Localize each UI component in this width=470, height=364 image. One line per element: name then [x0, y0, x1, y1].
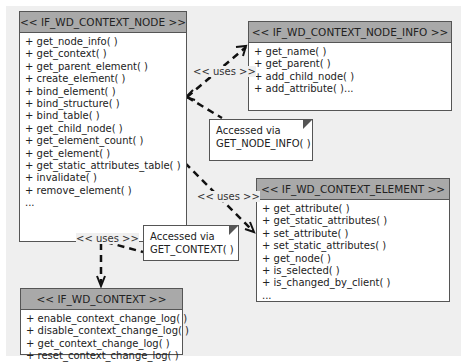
method-item: + get_parent_element( )	[25, 61, 186, 73]
method-item: + reset_context_change_log( )	[26, 350, 182, 362]
box-title: << IF_WD_CONTEXT >>	[21, 289, 182, 310]
method-list: + enable_context_change_log( ) + disable…	[21, 310, 182, 363]
note-line: Accessed via	[150, 230, 238, 243]
box-title: << IF_WD_CONTEXT_ELEMENT >>	[257, 179, 449, 200]
uses-label-node-info: << uses >>	[193, 66, 256, 77]
note-fold-icon	[303, 119, 313, 129]
method-item: + create_element( )	[25, 73, 186, 85]
box-title: << IF_WD_CONTEXT_NODE_INFO >>	[249, 22, 451, 43]
method-item: + get_context( )	[25, 48, 186, 60]
method-item: + bind_table( )	[25, 110, 186, 122]
note-fold-icon	[229, 225, 239, 235]
method-list: + get_node_info( ) + get_context( ) + ge…	[20, 33, 186, 210]
uses-label-element: << uses >>	[197, 191, 260, 202]
note-line: GET_CONTEXT( )	[150, 243, 238, 256]
method-item: + get_element( )	[25, 148, 186, 160]
method-item: + set_static_attributes( )	[262, 240, 449, 252]
note-line-node-info	[187, 97, 222, 118]
method-item: ...	[25, 197, 186, 209]
box-if-wd-context-element: << IF_WD_CONTEXT_ELEMENT >> + get_attrib…	[256, 178, 450, 302]
box-if-wd-context-node-info: << IF_WD_CONTEXT_NODE_INFO >> + get_name…	[248, 21, 452, 111]
method-item: ...	[262, 290, 449, 302]
box-title: << IF_WD_CONTEXT_NODE >>	[20, 12, 186, 33]
method-item: + invalidate( )	[25, 172, 186, 184]
method-list: + get_name( ) + get_parent( ) + add_chil…	[249, 43, 451, 96]
method-item: + get_attribute( )	[262, 203, 449, 215]
method-list: + get_attribute( ) + get_static_attribut…	[257, 200, 449, 302]
method-item: + get_static_attributes_table( )	[25, 160, 186, 172]
method-item: + get_static_attributes( )	[262, 215, 449, 227]
method-item: + get_node_info( )	[25, 36, 186, 48]
method-item: + is_selected( )	[262, 265, 449, 277]
box-if-wd-context-node: << IF_WD_CONTEXT_NODE >> + get_node_info…	[19, 11, 187, 242]
method-item: + get_child_node( )	[25, 123, 186, 135]
note-accessed-via-get-context: Accessed via GET_CONTEXT( )	[143, 225, 239, 261]
method-item: + get_element_count( )	[25, 135, 186, 147]
method-item: + get_parent( )	[254, 58, 451, 70]
method-item: + add_attribute( )...	[254, 83, 451, 95]
method-item: + bind_element( )	[25, 86, 186, 98]
note-line: Accessed via	[216, 124, 312, 137]
method-item: + get_context_change_log( )	[26, 338, 182, 350]
method-item: + get_node( )	[262, 253, 449, 265]
note-line: GET_NODE_INFO( )	[216, 137, 312, 150]
method-item: + disable_context_change_log( )	[26, 325, 182, 337]
method-item: + set_attribute( )	[262, 228, 449, 240]
method-item: + get_name( )	[254, 46, 451, 58]
uses-label-context: << uses >>	[76, 233, 139, 244]
method-item: + enable_context_change_log( )	[26, 313, 182, 325]
method-item: + remove_element( )	[25, 185, 186, 197]
method-item: + is_changed_by_client( )	[262, 277, 449, 289]
method-item: + add_child_node( )	[254, 71, 451, 83]
method-item: + bind_structure( )	[25, 98, 186, 110]
note-accessed-via-get-node-info: Accessed via GET_NODE_INFO( )	[209, 119, 313, 161]
box-if-wd-context: << IF_WD_CONTEXT >> + enable_context_cha…	[20, 288, 183, 355]
